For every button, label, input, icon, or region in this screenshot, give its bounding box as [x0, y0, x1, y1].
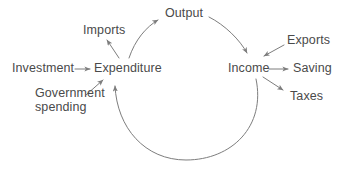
node-saving: Saving	[293, 62, 332, 75]
node-taxes: Taxes	[290, 90, 323, 103]
node-investment: Investment	[12, 62, 74, 75]
edge-exports-to-income	[264, 45, 284, 56]
node-income: Income	[228, 62, 270, 75]
edge-output-to-income	[209, 17, 247, 53]
node-exports: Exports	[287, 34, 330, 47]
edge-income-to-taxes	[263, 77, 283, 90]
node-government-spending: Government spending	[35, 87, 105, 114]
circular-flow-diagram: Investment Expenditure Imports Output In…	[0, 0, 340, 173]
edge-expenditure-to-output	[129, 20, 158, 58]
node-output: Output	[165, 7, 203, 20]
edge-income-to-expenditure	[115, 79, 258, 160]
node-expenditure: Expenditure	[94, 62, 162, 75]
edge-expenditure-to-imports	[107, 40, 119, 58]
node-imports: Imports	[83, 24, 125, 37]
